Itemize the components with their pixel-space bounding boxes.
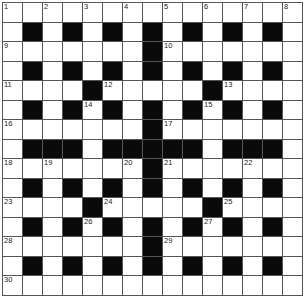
answer-cell[interactable] [243,23,263,43]
answer-cell[interactable] [263,159,283,179]
answer-cell[interactable] [123,198,143,218]
answer-cell[interactable] [143,3,163,23]
answer-cell[interactable]: 26 [83,218,103,238]
answer-cell[interactable] [283,276,303,296]
answer-cell[interactable] [43,62,63,82]
answer-cell[interactable] [203,140,223,160]
answer-cell[interactable] [223,159,243,179]
answer-cell[interactable] [163,276,183,296]
answer-cell[interactable] [103,42,123,62]
answer-cell[interactable] [203,62,223,82]
answer-cell[interactable] [3,62,23,82]
answer-cell[interactable]: 21 [163,159,183,179]
answer-cell[interactable] [163,198,183,218]
answer-cell[interactable] [283,179,303,199]
answer-cell[interactable] [183,198,203,218]
answer-cell[interactable]: 5 [163,3,183,23]
answer-cell[interactable]: 9 [3,42,23,62]
answer-cell[interactable] [223,120,243,140]
answer-cell[interactable] [223,42,243,62]
answer-cell[interactable] [183,276,203,296]
answer-cell[interactable] [123,42,143,62]
answer-cell[interactable] [243,120,263,140]
answer-cell[interactable] [163,81,183,101]
answer-cell[interactable] [203,237,223,257]
answer-cell[interactable] [123,257,143,277]
answer-cell[interactable] [43,179,63,199]
answer-cell[interactable] [63,276,83,296]
answer-cell[interactable] [283,62,303,82]
answer-cell[interactable] [43,120,63,140]
answer-cell[interactable] [123,179,143,199]
answer-cell[interactable] [123,276,143,296]
answer-cell[interactable] [283,140,303,160]
answer-cell[interactable]: 10 [163,42,183,62]
answer-cell[interactable]: 2 [43,3,63,23]
answer-cell[interactable] [3,23,23,43]
answer-cell[interactable] [63,159,83,179]
answer-cell[interactable] [163,179,183,199]
answer-cell[interactable] [263,198,283,218]
answer-cell[interactable] [143,276,163,296]
answer-cell[interactable] [203,257,223,277]
answer-cell[interactable] [43,101,63,121]
answer-cell[interactable] [283,81,303,101]
answer-cell[interactable] [23,3,43,23]
answer-cell[interactable] [63,42,83,62]
answer-cell[interactable]: 29 [163,237,183,257]
answer-cell[interactable]: 4 [123,3,143,23]
answer-cell[interactable] [43,237,63,257]
answer-cell[interactable]: 14 [83,101,103,121]
answer-cell[interactable]: 16 [3,120,23,140]
answer-cell[interactable] [3,257,23,277]
answer-cell[interactable]: 1 [3,3,23,23]
answer-cell[interactable] [203,159,223,179]
answer-cell[interactable] [43,218,63,238]
answer-cell[interactable] [43,276,63,296]
answer-cell[interactable] [83,159,103,179]
answer-cell[interactable] [163,62,183,82]
answer-cell[interactable] [3,179,23,199]
answer-cell[interactable] [23,198,43,218]
answer-cell[interactable] [23,276,43,296]
answer-cell[interactable] [83,140,103,160]
answer-cell[interactable] [103,276,123,296]
answer-cell[interactable] [203,42,223,62]
answer-cell[interactable] [283,218,303,238]
answer-cell[interactable] [43,257,63,277]
answer-cell[interactable] [263,81,283,101]
answer-cell[interactable] [103,237,123,257]
answer-cell[interactable]: 6 [203,3,223,23]
answer-cell[interactable]: 25 [223,198,243,218]
answer-cell[interactable] [223,3,243,23]
answer-cell[interactable]: 7 [243,3,263,23]
answer-cell[interactable] [83,257,103,277]
answer-cell[interactable] [163,257,183,277]
answer-cell[interactable] [263,276,283,296]
answer-cell[interactable] [123,237,143,257]
answer-cell[interactable] [43,198,63,218]
answer-cell[interactable] [163,23,183,43]
answer-cell[interactable] [63,3,83,23]
answer-cell[interactable] [183,3,203,23]
answer-cell[interactable] [283,120,303,140]
answer-cell[interactable]: 28 [3,237,23,257]
answer-cell[interactable] [243,81,263,101]
answer-cell[interactable]: 11 [3,81,23,101]
answer-cell[interactable] [283,198,303,218]
answer-cell[interactable]: 23 [3,198,23,218]
answer-cell[interactable]: 13 [223,81,243,101]
answer-cell[interactable] [43,81,63,101]
answer-cell[interactable] [223,237,243,257]
answer-cell[interactable] [143,81,163,101]
answer-cell[interactable] [243,257,263,277]
answer-cell[interactable] [263,120,283,140]
answer-cell[interactable] [23,81,43,101]
answer-cell[interactable] [183,237,203,257]
answer-cell[interactable] [263,237,283,257]
answer-cell[interactable] [283,101,303,121]
answer-cell[interactable] [203,276,223,296]
answer-cell[interactable] [163,101,183,121]
answer-cell[interactable]: 8 [283,3,303,23]
answer-cell[interactable] [123,120,143,140]
